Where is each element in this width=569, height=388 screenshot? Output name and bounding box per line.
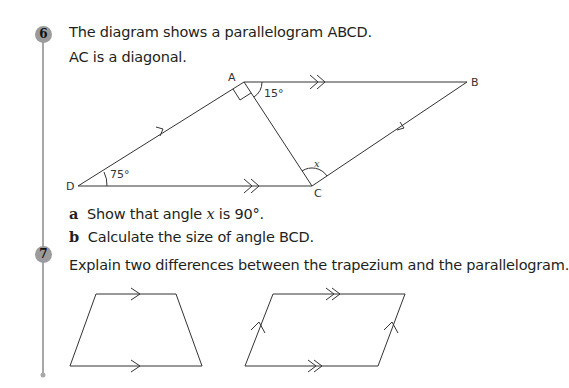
parallelogram-diagram — [0, 0, 509, 388]
